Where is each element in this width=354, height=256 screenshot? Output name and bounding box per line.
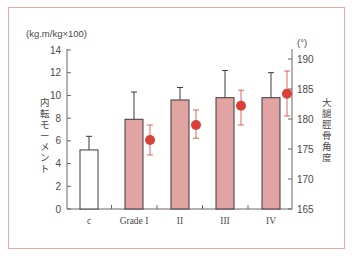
category-label: II	[177, 216, 183, 226]
data-dot	[282, 89, 292, 99]
bar	[262, 98, 280, 209]
right-tick-label: 185	[297, 84, 314, 95]
right-tick-label: 175	[297, 144, 314, 155]
left-axis-label-char: モ	[40, 119, 50, 130]
right-tick-label: 165	[297, 204, 314, 215]
bar-series	[80, 70, 280, 209]
left-axis-label-char: メ	[40, 141, 50, 152]
category-label: c	[87, 216, 91, 226]
data-dot	[236, 101, 246, 111]
right-axis-label-char: 度	[322, 152, 332, 163]
left-axis-label-char: 内	[40, 97, 50, 108]
category-label: Grade I	[120, 216, 149, 226]
right-axis-label-char: 脛	[322, 119, 332, 130]
left-axis-label: 内転モーメント	[40, 97, 50, 174]
left-axis-label-char: 転	[40, 108, 50, 119]
right-axis-label: 大腿脛骨角度	[322, 97, 332, 163]
left-axis-label-char: ン	[40, 152, 50, 163]
bar	[216, 98, 234, 209]
right-axis-label-char: 角	[322, 141, 332, 152]
left-axis-unit: (kg.m/kg×100)	[26, 28, 87, 39]
left-tick-label: 8	[55, 113, 61, 124]
left-tick-label: 0	[55, 204, 61, 215]
bar	[125, 119, 143, 209]
bar	[80, 150, 98, 209]
left-tick-label: 4	[55, 158, 61, 169]
right-tick-label: 170	[297, 174, 314, 185]
left-axis-label-char: ー	[40, 130, 50, 141]
right-axis-label-char: 腿	[322, 108, 332, 119]
right-tick-label: 190	[297, 54, 314, 65]
right-axis-label-char: 骨	[322, 130, 332, 141]
right-tick-label: 180	[297, 114, 314, 125]
left-tick-label: 12	[50, 67, 62, 78]
category-label: III	[220, 216, 230, 226]
chart: 02468101214 165170175180185190 cGrade II…	[0, 0, 354, 256]
left-axis-label-char: ト	[40, 163, 50, 174]
left-tick-label: 6	[55, 135, 61, 146]
right-axis-label-char: 大	[322, 97, 332, 108]
right-axis-unit: (°)	[297, 37, 307, 48]
left-tick-label: 10	[50, 90, 62, 101]
data-dot	[145, 135, 155, 145]
left-axis-ticks: 02468101214	[50, 45, 71, 215]
left-tick-label: 14	[50, 45, 62, 56]
category-label: IV	[266, 216, 276, 226]
bar	[171, 100, 189, 209]
data-dot	[191, 120, 201, 130]
left-tick-label: 2	[55, 181, 61, 192]
